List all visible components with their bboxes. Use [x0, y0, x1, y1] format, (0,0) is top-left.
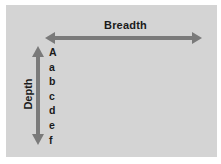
hierarchy-item: c [49, 89, 57, 104]
depth-label: Depth [22, 74, 34, 114]
hierarchy-list: A a b c d e f [49, 45, 57, 147]
hierarchy-item: d [49, 103, 57, 118]
hierarchy-item: a [49, 60, 57, 75]
hierarchy-item: e [49, 118, 57, 133]
hierarchy-item: A [49, 45, 57, 60]
hierarchy-item: f [49, 133, 57, 148]
hierarchy-item: b [49, 74, 57, 89]
breadth-arrow [45, 32, 202, 44]
breadth-label: Breadth [104, 19, 147, 31]
